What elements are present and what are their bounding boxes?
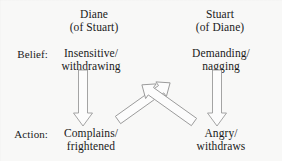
diagram-canvas: Diane (of Stuart) Stuart (of Diane) Beli… xyxy=(0,0,282,161)
arrows-layer xyxy=(0,0,282,161)
arrow-stuart-belief-to-action-icon xyxy=(208,70,227,126)
arrow-diane-belief-to-action-icon xyxy=(74,70,93,126)
